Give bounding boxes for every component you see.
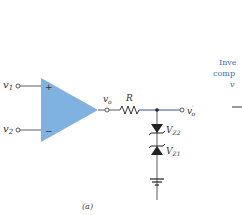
zener-vz1-icon (149, 144, 165, 155)
input-v1-terminal (16, 84, 20, 88)
minus-sign: − (45, 126, 53, 136)
input-v2-label: v2 (3, 123, 14, 136)
figure-caption: (a) (82, 202, 93, 211)
output-vo-label: vo (103, 94, 112, 105)
output-vo-prime-label: v′o (187, 104, 195, 117)
resistor-icon (120, 106, 139, 114)
input-v2: v2 (3, 123, 41, 136)
comparator-circuit: v1 v2 + − vo R v′o VZ2 VZ1 (a) Inve comp (0, 0, 242, 215)
output-vo-prime-terminal (180, 108, 184, 112)
zener-vz2-label: VZ2 (166, 125, 181, 136)
output-vo-terminal (105, 108, 109, 112)
resistor-label: R (125, 93, 133, 103)
side-text-line-2: comp (213, 69, 235, 78)
side-text-line-1: Inve (219, 58, 237, 67)
input-v2-terminal (16, 128, 20, 132)
zener-vz1-label: VZ1 (166, 146, 181, 157)
input-v1-label: v1 (3, 79, 13, 92)
plus-sign: + (45, 82, 53, 92)
side-text-line-3: v (230, 80, 235, 89)
zener-vz2-icon (149, 124, 165, 135)
input-v1: v1 (3, 79, 41, 92)
